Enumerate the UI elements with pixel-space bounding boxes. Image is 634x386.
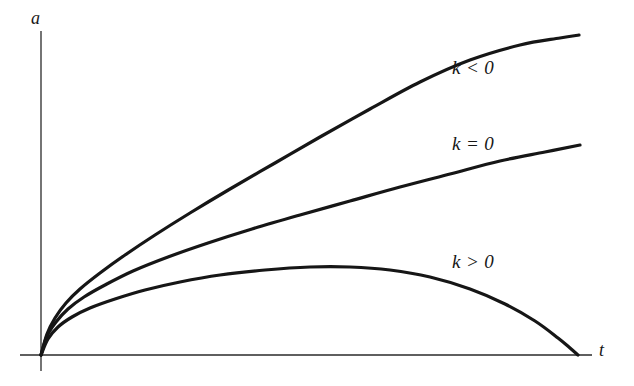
curve-k-zero bbox=[41, 145, 580, 355]
curve-label-k-zero: k = 0 bbox=[452, 133, 494, 155]
x-axis-label: t bbox=[599, 340, 604, 361]
scale-factor-figure: a t k < 0 k = 0 k > 0 bbox=[0, 0, 634, 386]
curve-k-positive bbox=[41, 267, 578, 355]
curve-k-negative bbox=[41, 35, 579, 355]
curve-label-k-positive: k > 0 bbox=[452, 251, 494, 273]
plot-canvas bbox=[0, 0, 634, 386]
curve-label-k-negative: k < 0 bbox=[452, 57, 494, 79]
y-axis-label: a bbox=[31, 8, 40, 29]
